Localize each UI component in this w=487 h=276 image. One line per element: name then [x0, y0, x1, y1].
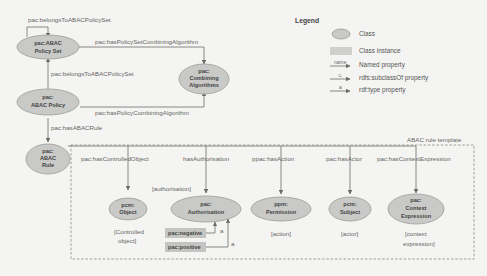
authorisation-label: hasAuthorisation [183, 155, 230, 162]
svg-text:Combining: Combining [189, 75, 219, 81]
self-loop-label: pac:belongsToABACPolicySet [28, 16, 111, 23]
set-combining-label: pac:hasPolicySetCombiningAlgorithm [95, 38, 198, 45]
abac-ontology-diagram: ABAC rule template pac:belongsToABACPoli… [0, 0, 487, 276]
svg-text:Class instance: Class instance [359, 47, 401, 54]
node-permission[interactable]: ppm: Permission [251, 197, 311, 221]
svg-text:pac:: pac: [410, 197, 422, 203]
legend-title: Legend [295, 17, 319, 25]
policy-to-set-label: pac:belongsToABACPolicySet [51, 70, 134, 77]
note-object-2: object] [118, 237, 137, 244]
template-title: ABAC rule template [407, 136, 462, 143]
svg-text:rdfs:subclassOf property: rdfs:subclassOf property [359, 74, 429, 82]
svg-text:Permission: Permission [266, 209, 297, 215]
svg-text:ppm:: ppm: [274, 201, 288, 207]
note-context-2: expression] [403, 240, 435, 247]
note-action: [action] [271, 230, 291, 237]
note-object-1: [Controlled [114, 228, 144, 235]
node-context-expression[interactable]: pac: Context Expression [388, 194, 444, 224]
has-rule-label: pac:hasABACRule [51, 124, 103, 131]
node-abac-rule[interactable]: pac: ABAC Rule [26, 144, 70, 174]
policy-combining-label: pac:hasPolicyCombiningAlgorithm [95, 109, 189, 116]
note-actor: [actor] [341, 230, 358, 237]
svg-text:Subject: Subject [340, 209, 360, 215]
svg-text:Rule: Rule [42, 162, 54, 168]
svg-text:ABAC: ABAC [40, 155, 56, 161]
policy-combining-edge [80, 92, 204, 107]
svg-text:pac:negative: pac:negative [168, 230, 202, 236]
note-authorisation: [authorisation] [152, 185, 191, 192]
node-abac-policy-set[interactable]: pac:ABAC Policy Set [17, 35, 79, 59]
svg-text:pac:ABAC: pac:ABAC [34, 40, 62, 46]
node-authorisation[interactable]: pac: Authorisation [171, 196, 241, 222]
svg-text:a: a [339, 84, 342, 90]
context-label: pac:hasContextExpression [377, 155, 451, 162]
action-label: ppac:hasAction [252, 155, 295, 162]
svg-text:Class: Class [359, 30, 375, 37]
instance-positive[interactable]: pac:positive [165, 242, 206, 252]
svg-text:Object: Object [119, 209, 137, 215]
svg-text:name: name [334, 59, 347, 65]
svg-text:⊆: ⊆ [338, 72, 342, 78]
type-label-2: a [231, 240, 235, 247]
actor-label: pac:hasActor [326, 155, 362, 162]
svg-text:ABAC Policy: ABAC Policy [31, 102, 66, 108]
type-edge-negative [206, 222, 215, 233]
node-abac-policy[interactable]: pac: ABAC Policy [17, 89, 79, 115]
controlled-object-label: pac:hasControlledObject [81, 155, 149, 162]
node-subject[interactable]: pcm: Subject [329, 197, 371, 221]
legend-class-symbol [332, 29, 350, 39]
svg-text:Named property: Named property [359, 61, 406, 69]
svg-text:pac:positive: pac:positive [168, 244, 201, 250]
note-context-1: [context [405, 230, 427, 237]
svg-text:pac:: pac: [198, 68, 210, 74]
svg-text:pcm:: pcm: [343, 201, 357, 207]
instance-negative[interactable]: pac:negative [165, 228, 206, 238]
svg-text:Policy Set: Policy Set [35, 48, 62, 54]
svg-text:Expression: Expression [401, 213, 432, 219]
svg-text:Algorithms: Algorithms [189, 82, 219, 88]
svg-text:pcm:: pcm: [121, 202, 135, 208]
svg-text:pac:: pac: [42, 94, 54, 100]
set-combining-edge [79, 47, 204, 64]
legend-instance-symbol [330, 47, 352, 55]
node-object[interactable]: pcm: Object [109, 198, 147, 220]
legend: Legend Class Class instance name Named p… [295, 17, 429, 94]
type-label-1: a [220, 227, 224, 234]
svg-text:Authorisation: Authorisation [188, 209, 225, 215]
svg-text:rdf:type property: rdf:type property [359, 86, 406, 94]
node-combining-algorithms[interactable]: pac: Combining Algorithms [179, 64, 229, 94]
svg-text:pac:: pac: [200, 201, 212, 207]
svg-text:Context: Context [406, 205, 427, 211]
svg-text:pac:: pac: [42, 148, 54, 154]
